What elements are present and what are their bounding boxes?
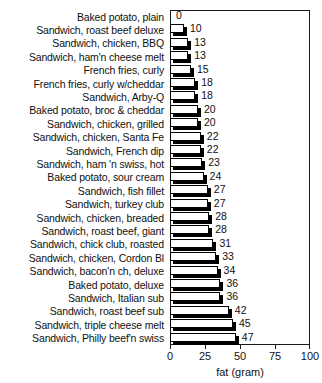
x-tick-label: 75 (269, 350, 281, 363)
horizontal-bar-chart: Baked potato, plainSandwich, roast beef … (0, 0, 322, 383)
bar (170, 118, 198, 127)
bar (170, 65, 191, 74)
category-label: Sandwich, turkey club (0, 199, 164, 210)
category-label: Sandwich, bacon'n ch, deluxe (0, 266, 164, 277)
category-label: Sandwich, chicken, breaded (0, 213, 164, 224)
category-label: French fries, curly w/cheddar (0, 79, 164, 90)
bar-value-label: 24 (210, 170, 222, 182)
bar-value-label: 34 (224, 264, 236, 276)
category-label: Sandwich, Philly beef'n swiss (0, 333, 164, 344)
bar (170, 38, 188, 47)
bar (170, 145, 201, 154)
bar-value-label: 13 (194, 36, 206, 48)
bar-value-label: 33 (222, 250, 234, 262)
bar-value-label: 18 (201, 89, 213, 101)
category-label: Sandwich, Italian sub (0, 293, 164, 304)
bar (170, 252, 216, 261)
x-tick-label: 50 (234, 350, 246, 363)
category-label: Sandwich, fish fillet (0, 186, 164, 197)
x-tick-mark (205, 345, 206, 349)
bar-value-label: 22 (207, 143, 219, 155)
category-axis-labels: Baked potato, plainSandwich, roast beef … (0, 10, 167, 345)
bar (170, 333, 236, 342)
category-label: Baked potato, plain (0, 12, 164, 23)
bar (170, 212, 209, 221)
x-tick-mark (170, 345, 171, 349)
bar-value-label: 20 (204, 116, 216, 128)
bar-value-label: 28 (215, 210, 227, 222)
bar-value-label: 27 (214, 197, 226, 209)
category-label: Sandwich, chicken, BBQ (0, 38, 164, 49)
bars-layer: 0101313151818202022222324272728283133343… (170, 10, 310, 345)
category-label: Sandwich, French dip (0, 146, 164, 157)
x-tick-label: 25 (199, 350, 211, 363)
category-label: Sandwich, chicken, Santa Fe (0, 132, 164, 143)
category-label: French fries, curly (0, 65, 164, 76)
bar (170, 91, 195, 100)
x-axis: fat (gram) 0255075100 (170, 345, 310, 383)
bar (170, 24, 184, 33)
bar-value-label: 47 (242, 331, 254, 343)
bar-value-label: 27 (214, 183, 226, 195)
bar-value-label: 36 (226, 277, 238, 289)
category-label: Sandwich, Arby-Q (0, 92, 164, 103)
bar (170, 105, 198, 114)
bar (170, 306, 229, 315)
bar-value-label: 42 (235, 304, 247, 316)
bar (170, 319, 233, 328)
bar-value-label: 18 (201, 76, 213, 88)
category-label: Sandwich, triple cheese melt (0, 320, 164, 331)
bar-value-label: 15 (197, 63, 209, 75)
bar (170, 239, 213, 248)
x-axis-title: fat (gram) (170, 366, 310, 379)
x-tick-mark (240, 345, 241, 349)
bar-value-label: 10 (190, 22, 202, 34)
category-label: Sandwich, roast beef, giant (0, 226, 164, 237)
bar (170, 292, 220, 301)
bar (170, 266, 218, 275)
bar-value-label: 45 (239, 317, 251, 329)
bar (170, 51, 188, 60)
category-label: Sandwich, ham 'n swiss, hot (0, 159, 164, 170)
bar (170, 132, 201, 141)
bar (170, 78, 195, 87)
category-label: Sandwich, chick club, roasted (0, 239, 164, 250)
category-label: Baked potato, broc & cheddar (0, 105, 164, 116)
bar-value-label: 20 (204, 103, 216, 115)
bar (170, 172, 204, 181)
bar-value-label: 36 (226, 290, 238, 302)
bar-value-label: 13 (194, 49, 206, 61)
x-tick-label: 100 (301, 350, 319, 363)
bar-value-label: 23 (208, 156, 220, 168)
category-label: Baked potato, sour cream (0, 172, 164, 183)
bar (170, 199, 208, 208)
category-label: Sandwich, chicken, grilled (0, 119, 164, 130)
x-tick-mark (275, 345, 276, 349)
category-label: Sandwich, ham'n cheese melt (0, 52, 164, 63)
bar (170, 225, 209, 234)
x-tick-label: 0 (167, 350, 173, 363)
category-label: Sandwich, roast beef deluxe (0, 25, 164, 36)
x-tick-mark (309, 345, 310, 349)
bar-value-label: 22 (207, 130, 219, 142)
bar-value-label: 31 (219, 237, 231, 249)
category-label: Sandwich, chicken, Cordon Bl (0, 253, 164, 264)
bar (170, 158, 202, 167)
bar (170, 185, 208, 194)
bar-value-label: 28 (215, 223, 227, 235)
bar-value-label: 0 (176, 9, 182, 21)
category-label: Sandwich, roast beef sub (0, 306, 164, 317)
category-label: Baked potato, deluxe (0, 280, 164, 291)
bar (170, 279, 220, 288)
